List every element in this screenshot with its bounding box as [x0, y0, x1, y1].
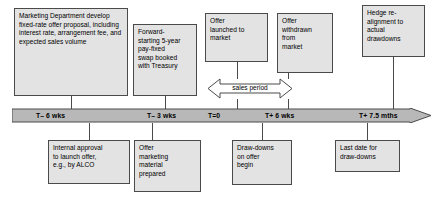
box-hedge-realignment: Hedge re- alignment to actual drawdowns: [362, 5, 425, 57]
sales-period-label: sales period: [208, 83, 292, 93]
connector-drawdowns-begin: [262, 123, 263, 140]
box-offer-marketing-material: Offer marketing material prepared: [134, 140, 201, 192]
box-last-date-drawdowns: Last date for draw-downs: [335, 140, 400, 172]
timeline-tick-t-plus-7-5-mths: T+ 7.5 mths: [359, 110, 398, 121]
timeline-tick-t-minus-3-wks: T– 3 wks: [147, 110, 176, 121]
connector-hedge-realignment: [393, 57, 394, 109]
timeline-tick-t-minus-6-wks: T– 6 wks: [36, 110, 65, 121]
timeline-diagram: Marketing Department develop fixed-rate …: [0, 0, 445, 200]
box-drawdowns-begin: Draw-downs on offer begin: [232, 140, 292, 185]
connector-internal-approval: [89, 123, 90, 140]
box-forward-starting-swap: Forward- starting 5-year pay-fixed swap …: [133, 24, 197, 96]
connector-offer-marketing-material: [152, 123, 153, 140]
timeline-tick-t-zero: T=0: [208, 110, 220, 121]
box-internal-approval: Internal approval to launch offer, e.g.,…: [48, 140, 130, 184]
connector-offer-launched: [237, 62, 238, 79]
box-offer-withdrawn: Offer withdrawn from market: [277, 13, 333, 73]
timeline-tick-t-plus-6-wks: T+ 6 wks: [265, 110, 294, 121]
box-offer-launched: Offer launched to market: [205, 13, 268, 62]
box-marketing-department: Marketing Department develop fixed-rate …: [14, 8, 128, 96]
connector-last-date-drawdowns: [367, 123, 368, 140]
